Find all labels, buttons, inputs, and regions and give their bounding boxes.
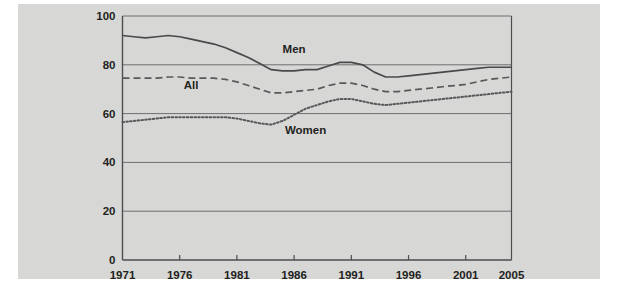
x-tick-marks [180, 255, 466, 260]
line-chart: 020406080100 197119761981198619911996200… [0, 0, 618, 297]
x-tick-labels: 19711976198119861991199620012005 [110, 269, 525, 281]
series-line-women [123, 92, 512, 125]
y-tick-label-40: 40 [103, 156, 116, 168]
series-line-all [123, 77, 512, 93]
series-label-all: All [184, 79, 199, 91]
y-tick-label-0: 0 [109, 254, 115, 266]
series-label-women: Women [285, 124, 326, 136]
x-tick-label-1971: 1971 [110, 269, 136, 281]
series-line-men [123, 36, 512, 77]
x-tick-label-2001: 2001 [453, 269, 479, 281]
y-tick-label-100: 100 [96, 10, 115, 22]
x-tick-label-1991: 1991 [339, 269, 365, 281]
x-tick-label-2005: 2005 [499, 269, 525, 281]
y-tick-labels: 020406080100 [96, 10, 115, 266]
series-label-men: Men [283, 43, 306, 55]
gridlines [123, 16, 512, 260]
x-tick-label-1976: 1976 [167, 269, 193, 281]
x-tick-label-1981: 1981 [224, 269, 250, 281]
data-series [123, 36, 512, 125]
x-tick-label-1996: 1996 [396, 269, 422, 281]
x-tick-label-1986: 1986 [281, 269, 307, 281]
figure-root: 020406080100 197119761981198619911996200… [0, 0, 618, 297]
y-tick-label-60: 60 [103, 108, 116, 120]
y-tick-label-20: 20 [103, 205, 116, 217]
y-tick-label-80: 80 [103, 59, 116, 71]
